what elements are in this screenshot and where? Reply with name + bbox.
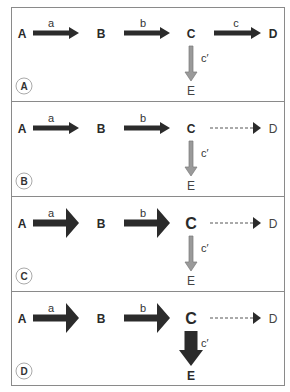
panel-badge: D [16, 363, 32, 379]
arrow-c-prime [185, 236, 197, 271]
edge-label-c-prime: c′ [201, 52, 209, 64]
arrow-a [33, 208, 79, 238]
node-c: C [185, 215, 197, 232]
arrow-c-prime [185, 141, 197, 176]
arrow-c-dashed [210, 312, 261, 324]
edge-label-b: b [140, 17, 146, 29]
node-a: A [18, 217, 27, 231]
badge-label: C [20, 271, 27, 282]
edge-label-c-prime: c′ [201, 337, 209, 349]
panel-a: ABCDEabcc′A [16, 17, 278, 98]
panel-c: ABCDEabc′C [16, 207, 278, 288]
node-d: D [269, 27, 278, 41]
arrow-c-prime [185, 46, 197, 81]
arrowhead-icon [253, 312, 261, 324]
arrow-a [33, 122, 79, 134]
arrow-b [124, 208, 170, 238]
arrowhead-icon [253, 122, 261, 134]
edge-label-c-prime: c′ [201, 147, 209, 159]
node-c: C [187, 122, 196, 136]
badge-label: B [20, 176, 27, 187]
panel-b: ABCDEabc′B [16, 112, 278, 193]
node-b: B [97, 122, 106, 136]
arrow-a [33, 303, 79, 333]
edge-label-c-prime: c′ [201, 242, 209, 254]
arrow-b [124, 27, 170, 39]
edge-label-a: a [48, 112, 55, 124]
node-e: E [187, 179, 195, 193]
metabolic-pathway-figure: ABCDEabcc′AABCDEabc′BABCDEabc′CABCDEabc′… [0, 0, 290, 392]
node-e: E [187, 369, 195, 383]
arrow-c-dashed [210, 122, 261, 134]
badge-label: A [20, 81, 27, 92]
arrow-c-dashed [210, 217, 261, 229]
node-b: B [97, 217, 106, 231]
node-b: B [97, 27, 106, 41]
node-c: C [187, 27, 196, 41]
edge-label-b: b [140, 207, 146, 219]
panel-badge: C [16, 268, 32, 284]
node-e: E [187, 274, 195, 288]
arrow-b [124, 303, 170, 333]
badge-label: D [20, 366, 27, 377]
node-b: B [97, 312, 106, 326]
edge-label-a: a [48, 207, 55, 219]
node-c: C [185, 310, 197, 327]
edge-label-b: b [140, 302, 146, 314]
node-e: E [187, 84, 195, 98]
edge-label-b: b [140, 112, 146, 124]
arrow-a [33, 27, 79, 39]
node-a: A [18, 312, 27, 326]
node-a: A [18, 27, 27, 41]
node-d: D [269, 122, 278, 136]
edge-label-a: a [48, 17, 55, 29]
node-d: D [269, 217, 278, 231]
node-a: A [18, 122, 27, 136]
edge-label-c: c [233, 17, 239, 29]
panel-badge: B [16, 173, 32, 189]
arrowhead-icon [253, 217, 261, 229]
node-d: D [269, 312, 278, 326]
panel-badge: A [16, 78, 32, 94]
edge-label-a: a [48, 302, 55, 314]
panel-d: ABCDEabc′D [16, 302, 278, 383]
arrow-b [124, 122, 170, 134]
arrow-c-prime [179, 331, 203, 366]
